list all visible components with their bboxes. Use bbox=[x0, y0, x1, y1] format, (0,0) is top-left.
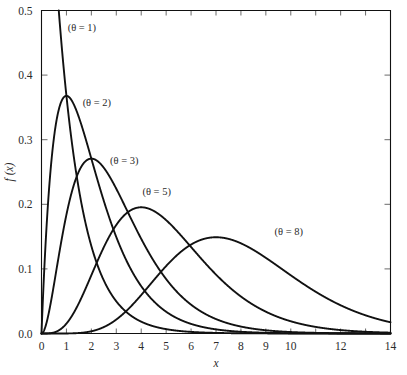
x-tick-label: 4 bbox=[138, 340, 144, 352]
x-tick-label: 5 bbox=[163, 340, 169, 352]
x-tick-label: 12 bbox=[335, 340, 347, 352]
y-tick-label: 0.0 bbox=[18, 328, 33, 340]
y-axis-label: f (x) bbox=[3, 162, 16, 181]
y-tick-label: 0.1 bbox=[18, 263, 33, 275]
x-tick-label: 3 bbox=[113, 340, 119, 352]
y-tick-label: 0.5 bbox=[18, 5, 33, 17]
plot-canvas: 0123456789101214 0.00.10.20.30.40.5 (θ =… bbox=[0, 0, 407, 375]
x-tick-label: 0 bbox=[39, 340, 45, 352]
curve-label-theta-3: (θ = 3) bbox=[110, 155, 139, 167]
x-tick-label: 7 bbox=[213, 340, 219, 352]
curve-label-theta-2: (θ = 2) bbox=[83, 97, 112, 109]
x-axis-label: x bbox=[212, 357, 219, 369]
y-tick-label: 0.3 bbox=[18, 134, 33, 146]
x-tick-label: 14 bbox=[385, 340, 397, 352]
gamma-density-chart: 0123456789101214 0.00.10.20.30.40.5 (θ =… bbox=[0, 0, 407, 375]
chart-background bbox=[0, 0, 407, 375]
curve-label-theta-8: (θ = 8) bbox=[275, 226, 304, 238]
curve-label-theta-5: (θ = 5) bbox=[142, 186, 171, 198]
x-tick-label: 8 bbox=[238, 340, 244, 352]
x-tick-label: 1 bbox=[64, 340, 70, 352]
curve-label-theta-1: (θ = 1) bbox=[68, 22, 97, 34]
x-tick-label: 2 bbox=[88, 340, 94, 352]
x-tick-label: 10 bbox=[285, 340, 297, 352]
x-tick-label: 6 bbox=[188, 340, 194, 352]
x-axis-tick-labels: 0123456789101214 bbox=[39, 340, 397, 352]
x-tick-label: 9 bbox=[263, 340, 269, 352]
y-tick-label: 0.4 bbox=[18, 69, 33, 81]
y-tick-label: 0.2 bbox=[18, 198, 33, 210]
